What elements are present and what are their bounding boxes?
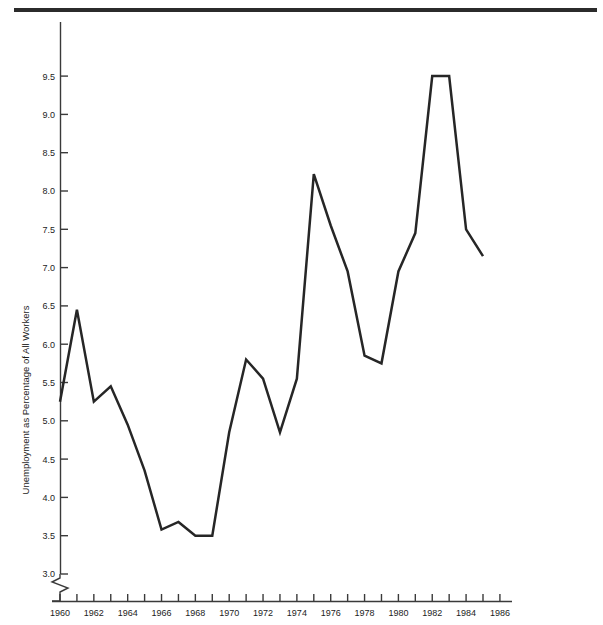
x-axis-tick-label: 1978 [355, 608, 375, 618]
x-axis-tick-label: 1960 [50, 608, 70, 618]
y-axis-tick-label: 8.5 [42, 148, 55, 158]
x-axis-tick-label: 1966 [152, 608, 172, 618]
x-axis-tick-label: 1976 [321, 608, 341, 618]
x-axis-tick-label: 1972 [253, 608, 273, 618]
x-axis-tick-label: 1984 [456, 608, 476, 618]
chart-figure: 3.03.54.04.55.05.56.06.57.07.58.08.59.09… [0, 0, 603, 625]
y-axis-ticks-group: 3.03.54.04.55.05.56.06.57.07.58.08.59.09… [42, 72, 68, 580]
x-axis-tick-label: 1986 [490, 608, 510, 618]
y-axis-tick-label: 7.5 [42, 225, 55, 235]
x-axis-tick-label: 1982 [422, 608, 442, 618]
y-axis-tick-label: 7.0 [42, 263, 55, 273]
y-axis-tick-label: 9.0 [42, 110, 55, 120]
y-axis-tick-label: 4.0 [42, 493, 55, 503]
x-axis-tick-label: 1968 [185, 608, 205, 618]
y-axis-tick-label: 3.5 [42, 531, 55, 541]
x-axis-tick-label: 1980 [388, 608, 408, 618]
x-axis-tick-label: 1970 [219, 608, 239, 618]
y-axis-title: Unemployment as Percentage of All Worker… [20, 305, 31, 494]
y-axis-tick-label: 5.5 [42, 378, 55, 388]
y-axis-tick-label: 3.0 [42, 569, 55, 579]
y-axis-tick-label: 6.0 [42, 340, 55, 350]
line-chart-plot: 3.03.54.04.55.05.56.06.57.07.58.08.59.09… [0, 0, 603, 625]
x-axis-ticks-group [60, 594, 500, 602]
x-axis-tick-label: 1964 [118, 608, 138, 618]
y-axis-tick-label: 9.5 [42, 72, 55, 82]
x-axis-tick-labels-group: 1960196219641966196819701972197419761978… [50, 608, 510, 618]
data-series-line [60, 76, 483, 536]
y-axis-tick-label: 6.5 [42, 301, 55, 311]
y-axis-tick-label: 5.0 [42, 416, 55, 426]
x-axis-tick-label: 1974 [287, 608, 307, 618]
x-axis-tick-label: 1962 [84, 608, 104, 618]
y-axis-tick-label: 4.5 [42, 455, 55, 465]
y-axis-tick-label: 8.0 [42, 186, 55, 196]
